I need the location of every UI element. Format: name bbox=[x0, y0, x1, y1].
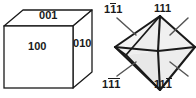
cube-front-face bbox=[4, 26, 73, 88]
leader-line-bottom-left bbox=[117, 62, 136, 76]
octa-label-top-left: 111 bbox=[104, 3, 122, 15]
cube-label-right-010: 010 bbox=[73, 38, 91, 49]
cube-label-front-100: 100 bbox=[28, 41, 46, 52]
octa-label-tr-digit3: 1 bbox=[165, 2, 171, 14]
octa-label-tl-digit3: 1 bbox=[116, 3, 122, 15]
octa-label-bl-digit3: 1 bbox=[114, 78, 120, 90]
cube-label-top-001: 001 bbox=[39, 10, 57, 21]
octa-label-bottom-left: 111 bbox=[102, 78, 120, 90]
octa-label-top-right: 111 bbox=[154, 3, 171, 14]
cube-label-front-digit3: 0 bbox=[40, 40, 46, 52]
cube-label-right-digit3: 0 bbox=[85, 37, 91, 49]
figure-root: 001 100 010 bbox=[0, 0, 196, 98]
octa-label-bottom-right: 111 bbox=[154, 78, 172, 90]
octa-label-br-digit3: 1 bbox=[166, 78, 172, 90]
octahedron-panel: 111 111 111 111 bbox=[98, 0, 196, 98]
cube-label-top-digit3: 1 bbox=[51, 9, 57, 21]
octa-face-upper-right bbox=[158, 16, 195, 51]
leader-line-top-left bbox=[117, 18, 136, 35]
cube-panel: 001 100 010 bbox=[0, 0, 98, 98]
